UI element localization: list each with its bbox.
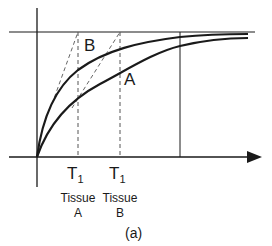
curve-a-label: A: [124, 70, 135, 90]
tissue-a-label: Tissue A: [58, 191, 98, 221]
t1-tissue-b-label: T1: [109, 164, 126, 185]
t1-tissue-a-label: T1: [67, 164, 84, 185]
x-axis-arrow-icon: [247, 151, 262, 163]
tissue-b-label: Tissue B: [100, 191, 140, 221]
figure-caption: (a): [125, 225, 142, 241]
curve-b: [37, 34, 248, 157]
tangent-b-dashed-line: [52, 32, 78, 104]
curve-a: [37, 38, 248, 157]
curve-b-label: B: [84, 36, 95, 56]
